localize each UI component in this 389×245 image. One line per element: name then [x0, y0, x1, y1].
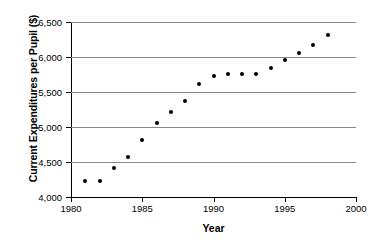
data-point [240, 72, 244, 76]
data-point [197, 82, 201, 86]
data-point [98, 179, 102, 183]
data-point [311, 43, 315, 47]
x-axis-tick-label: 1990 [203, 203, 224, 214]
data-point [212, 74, 216, 78]
data-point-layer [71, 22, 356, 197]
data-point [183, 99, 187, 103]
x-axis-line [71, 197, 357, 198]
data-point [140, 138, 144, 142]
x-axis-tick-label: 1995 [274, 203, 295, 214]
data-point [269, 66, 273, 70]
plot-area [71, 22, 356, 197]
data-point [83, 179, 87, 183]
data-point [254, 72, 258, 76]
x-axis-tick-label: 1985 [132, 203, 153, 214]
data-point [297, 51, 301, 55]
data-point [283, 58, 287, 62]
data-point [326, 33, 330, 37]
data-point [126, 155, 130, 159]
x-axis-tick-label: 1980 [60, 203, 81, 214]
data-point [226, 72, 230, 76]
chart-figure: Current Expenditures per Pupil ($) Year … [0, 0, 389, 245]
data-point [155, 121, 159, 125]
x-axis-tick-label: 2000 [345, 203, 366, 214]
data-point [169, 110, 173, 114]
data-point [112, 166, 116, 170]
